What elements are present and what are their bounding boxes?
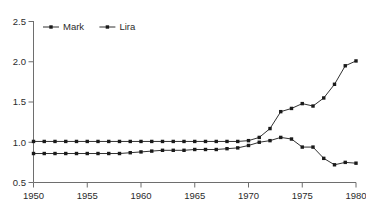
x-tick-label: 1975 — [292, 190, 313, 201]
data-point-marker — [215, 148, 218, 151]
data-point-marker — [32, 140, 35, 143]
data-point-marker — [182, 140, 185, 143]
chart-legend: MarkLira — [43, 21, 136, 32]
series-mark — [32, 59, 358, 143]
data-point-marker — [129, 140, 132, 143]
data-point-marker — [161, 149, 164, 152]
legend-label: Mark — [63, 21, 84, 32]
legend-marker-icon — [49, 25, 52, 28]
data-point-marker — [96, 140, 99, 143]
x-tick-label: 1955 — [77, 190, 98, 201]
data-point-marker — [301, 145, 304, 148]
x-axis-ticks: 1950195519601965197019751980 — [23, 183, 366, 202]
data-point-marker — [322, 96, 325, 99]
x-tick-label: 1980 — [345, 190, 366, 201]
data-point-marker — [247, 139, 250, 142]
data-point-marker — [204, 148, 207, 151]
chart-container: 0.51.01.52.02.5 195019551960196519701975… — [0, 0, 366, 210]
data-point-marker — [258, 136, 261, 139]
data-point-marker — [139, 140, 142, 143]
data-point-marker — [150, 140, 153, 143]
data-point-marker — [107, 140, 110, 143]
y-tick-label: 1.0 — [13, 137, 26, 148]
data-point-marker — [53, 152, 56, 155]
data-point-marker — [75, 140, 78, 143]
data-point-marker — [258, 141, 261, 144]
x-tick-label: 1965 — [184, 190, 205, 201]
data-point-marker — [75, 152, 78, 155]
data-point-marker — [290, 107, 293, 110]
data-point-marker — [86, 152, 89, 155]
y-tick-label: 0.5 — [13, 177, 26, 188]
data-point-marker — [344, 64, 347, 67]
data-point-marker — [354, 161, 357, 164]
legend-label: Lira — [119, 21, 136, 32]
data-point-marker — [150, 149, 153, 152]
axes — [34, 21, 357, 183]
data-point-marker — [129, 151, 132, 154]
data-point-marker — [333, 83, 336, 86]
data-point-marker — [247, 144, 250, 147]
data-point-marker — [96, 152, 99, 155]
data-point-marker — [193, 148, 196, 151]
data-point-marker — [236, 146, 239, 149]
data-point-marker — [268, 127, 271, 130]
data-point-marker — [118, 152, 121, 155]
data-point-marker — [268, 139, 271, 142]
data-point-marker — [43, 140, 46, 143]
legend-item-lira[interactable]: Lira — [99, 21, 136, 32]
x-tick-label: 1950 — [23, 190, 44, 201]
series-line — [34, 61, 357, 142]
data-point-marker — [32, 152, 35, 155]
data-point-marker — [53, 140, 56, 143]
data-point-marker — [43, 152, 46, 155]
data-point-marker — [64, 152, 67, 155]
data-point-marker — [204, 140, 207, 143]
x-tick-label: 1960 — [130, 190, 151, 201]
data-point-marker — [172, 149, 175, 152]
data-point-marker — [215, 140, 218, 143]
y-tick-label: 1.5 — [13, 96, 26, 107]
data-point-marker — [225, 140, 228, 143]
data-point-marker — [139, 150, 142, 153]
y-tick-label: 2.0 — [13, 56, 26, 67]
line-chart: 0.51.01.52.02.5 195019551960196519701975… — [0, 0, 366, 210]
data-point-marker — [172, 140, 175, 143]
legend-item-mark[interactable]: Mark — [43, 21, 84, 32]
data-point-marker — [118, 140, 121, 143]
y-axis-ticks: 0.51.01.52.02.5 — [13, 16, 34, 188]
series-layer — [32, 59, 358, 166]
data-point-marker — [301, 102, 304, 105]
legend-marker-icon — [106, 25, 109, 28]
data-point-marker — [64, 140, 67, 143]
data-point-marker — [311, 145, 314, 148]
data-point-marker — [182, 149, 185, 152]
data-point-marker — [279, 136, 282, 139]
data-point-marker — [290, 137, 293, 140]
data-point-marker — [107, 152, 110, 155]
data-point-marker — [193, 140, 196, 143]
data-point-marker — [311, 104, 314, 107]
data-point-marker — [354, 59, 357, 62]
data-point-marker — [86, 140, 89, 143]
data-point-marker — [322, 157, 325, 160]
x-tick-label: 1970 — [238, 190, 259, 201]
data-point-marker — [236, 140, 239, 143]
data-point-marker — [333, 163, 336, 166]
data-point-marker — [279, 110, 282, 113]
data-point-marker — [225, 147, 228, 150]
data-point-marker — [161, 140, 164, 143]
data-point-marker — [344, 161, 347, 164]
y-tick-label: 2.5 — [13, 16, 26, 27]
